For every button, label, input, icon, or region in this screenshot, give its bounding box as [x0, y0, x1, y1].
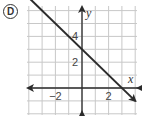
svg-text:−2: −2 — [49, 90, 62, 102]
svg-text:x: x — [127, 72, 134, 86]
svg-text:2: 2 — [72, 56, 78, 68]
coordinate-plane: xy −2224 — [0, 0, 142, 116]
svg-text:y: y — [85, 6, 92, 20]
plotted-line — [30, 0, 135, 101]
svg-text:2: 2 — [106, 90, 112, 102]
tick-labels: −2224 — [49, 30, 112, 102]
